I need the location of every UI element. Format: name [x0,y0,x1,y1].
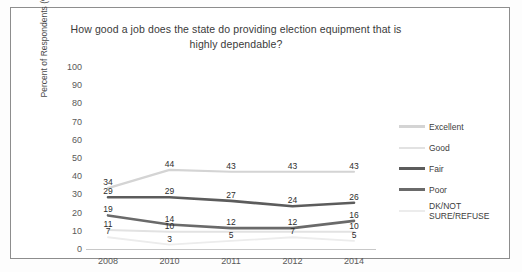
y-tick-label: 20 [56,208,82,218]
data-point-label: 44 [165,159,174,169]
data-point-label: 3 [167,234,172,244]
x-tick-label: 2008 [78,256,138,266]
legend-label: Fair [429,164,444,174]
plot-area: Percent of Respondents (%) 1009080706050… [86,68,376,250]
legend-swatch-icon [399,210,425,212]
x-tick-label: 2010 [140,256,200,266]
legend-swatch-icon [399,125,425,127]
legend-item[interactable]: Excellent [399,116,519,137]
legend-item[interactable]: Fair [399,158,519,179]
data-point-label: 14 [165,214,174,224]
y-tick-label: 10 [56,226,82,236]
legend-label: Good [429,143,450,153]
y-tick-label: 30 [56,189,82,199]
data-point-label: 29 [165,186,174,196]
legend-swatch-icon [399,147,425,149]
data-point-label: 7 [106,226,111,236]
legend-label: Excellent [429,122,464,132]
chart-legend: ExcellentGoodFairPoorDK/NOT SURE/REFUSE [399,116,519,221]
x-tick-label: 2011 [201,256,261,266]
y-tick-label: 70 [56,117,82,127]
series-line [108,170,354,188]
data-point-label: 26 [349,192,358,202]
chart-frame: How good a job does the state do providi… [10,7,510,259]
data-point-label: 5 [352,230,357,240]
legend-label: Poor [429,185,447,195]
y-tick-label: 0 [56,244,82,254]
data-point-label: 43 [226,161,235,171]
legend-item[interactable]: Good [399,137,519,158]
y-tick-label: 90 [56,80,82,90]
y-tick-label: 60 [56,135,82,145]
data-point-label: 27 [226,190,235,200]
y-tick-label: 50 [56,153,82,163]
y-tick-label: 100 [56,62,82,72]
legend-swatch-icon [399,167,425,170]
data-point-label: 43 [288,161,297,171]
legend-swatch-icon [399,188,425,191]
data-point-label: 29 [103,186,112,196]
data-point-label: 43 [349,161,358,171]
x-tick-label: 2014 [324,256,384,266]
data-point-label: 24 [288,195,297,205]
legend-item[interactable]: Poor [399,179,519,200]
legend-label: DK/NOT SURE/REFUSE [429,201,519,221]
data-point-label: 7 [290,226,295,236]
chart-title: How good a job does the state do providi… [66,22,406,52]
data-point-label: 5 [229,230,234,240]
data-point-label: 12 [226,217,235,227]
y-tick-label: 40 [56,171,82,181]
x-tick-label: 2012 [263,256,323,266]
y-axis-label: Percent of Respondents (%) [39,0,49,104]
y-tick-label: 80 [56,98,82,108]
data-point-label: 16 [349,210,358,220]
data-point-label: 19 [103,204,112,214]
legend-item[interactable]: DK/NOT SURE/REFUSE [399,200,519,221]
